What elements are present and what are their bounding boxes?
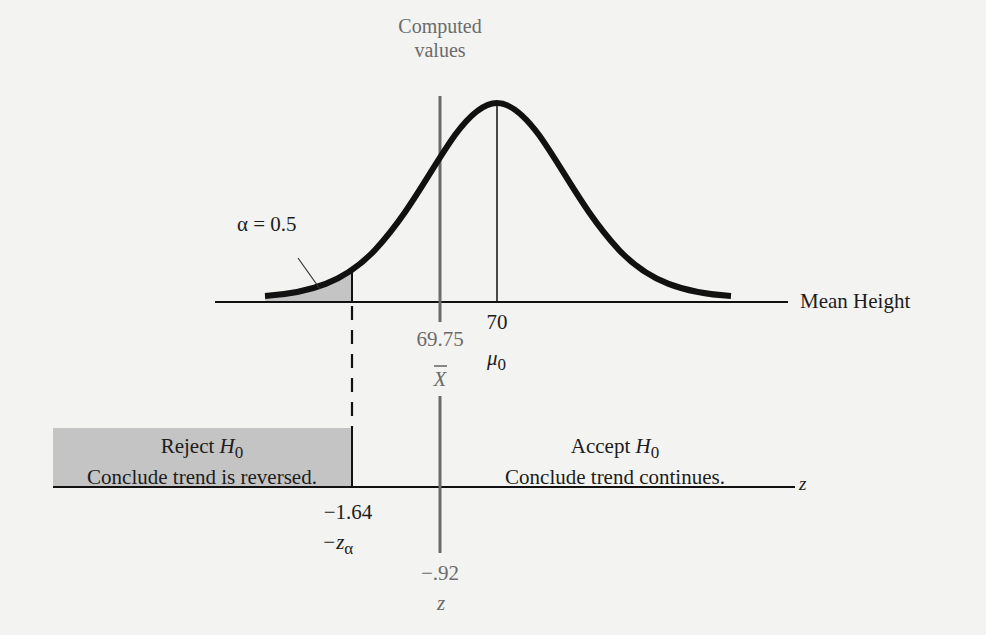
reject-region-label: Reject H0 Conclude trend is reversed. <box>87 434 317 489</box>
x-axis-label: Mean Height <box>800 291 910 312</box>
mu-value: 70 <box>487 312 508 333</box>
accept-region-label: Accept H0 Conclude trend continues. <box>505 434 725 489</box>
critical-symbol: −zα <box>322 532 353 557</box>
computed-values-label-line1: Computed <box>398 16 481 36</box>
alpha-label: α = 0.5 <box>237 214 297 235</box>
alpha-pointer-line <box>298 258 320 289</box>
mu-letter: μ <box>487 346 498 370</box>
accept-conclusion: Conclude trend continues. <box>505 465 725 489</box>
reject-title: Reject H0 <box>87 434 317 465</box>
z-axis-label: z <box>799 474 806 493</box>
reject-conclusion: Conclude trend is reversed. <box>87 465 317 489</box>
xbar-symbol: X <box>434 369 447 390</box>
computed-z-symbol: z <box>437 593 445 614</box>
normal-curve <box>265 103 731 296</box>
computed-values-label-line2: values <box>414 40 465 60</box>
mu-subscript: 0 <box>498 355 507 374</box>
accept-title: Accept H0 <box>505 434 725 465</box>
computed-z-value: −.92 <box>421 563 459 584</box>
mu-symbol: μ0 <box>487 348 506 373</box>
xbar-value: 69.75 <box>416 329 463 350</box>
critical-value: −1.64 <box>324 502 373 523</box>
